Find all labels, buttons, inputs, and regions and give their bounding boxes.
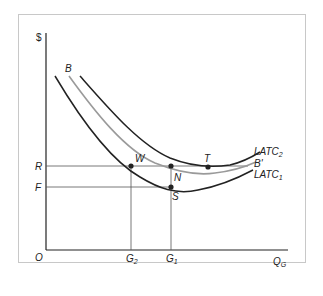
r-label: R: [35, 161, 42, 172]
b-start-label: B: [65, 63, 72, 74]
t-label: T: [204, 153, 211, 164]
point-w: [128, 163, 133, 168]
b-prime-label: B': [254, 158, 264, 169]
cost-curves-diagram: $ O QG R F G2 G1 W N S T B LATC2 B' LATC…: [0, 0, 323, 296]
latc1-label: LATC1: [254, 169, 283, 181]
latc1-curve: [55, 76, 253, 192]
point-n: [168, 163, 173, 168]
latc2-label: LATC2: [254, 146, 283, 158]
latc2-curve: [80, 76, 260, 166]
s-label: S: [172, 191, 179, 202]
f-label: F: [35, 182, 42, 193]
w-label: W: [135, 153, 146, 164]
g1-label: G1: [166, 253, 178, 265]
x-axis-label: QG: [273, 256, 287, 268]
b-curve: [69, 76, 256, 174]
y-axis-label: $: [36, 32, 42, 43]
point-t: [205, 164, 210, 169]
n-label: N: [174, 172, 182, 183]
figure-frame: [19, 15, 306, 263]
g2-label: G2: [126, 253, 138, 265]
origin-label: O: [35, 252, 43, 263]
point-s: [168, 184, 173, 189]
